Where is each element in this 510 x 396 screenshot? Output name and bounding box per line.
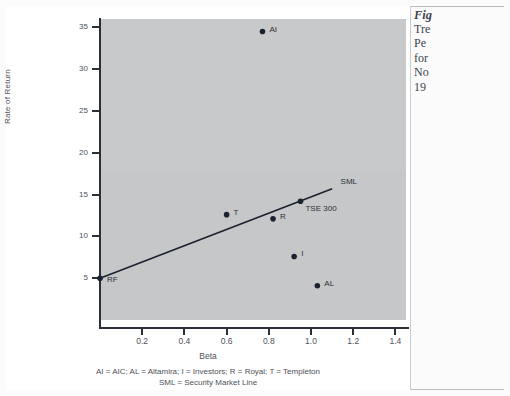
margin-note-line: Tre	[414, 22, 510, 36]
caption-line-2: SML = Security Market Line	[6, 377, 410, 388]
data-points-group	[97, 29, 320, 289]
margin-note-line: 19	[414, 80, 510, 94]
data-point-label: I	[301, 249, 303, 258]
chart-overlay	[6, 6, 410, 390]
figure-caption: AI = AIC; AL = Altamira; I = Investors; …	[6, 366, 410, 388]
margin-note-line: for	[414, 51, 510, 65]
margin-note-heading: Fig	[414, 8, 510, 22]
data-point	[291, 254, 297, 260]
data-point-label: T	[234, 208, 239, 217]
data-point-label: AL	[324, 279, 334, 288]
data-point-label: RF	[107, 275, 118, 284]
margin-note: Fig TrePeforNo19	[414, 8, 510, 94]
data-point	[260, 29, 266, 35]
data-point	[97, 275, 103, 281]
data-point-label: AI	[269, 25, 277, 34]
figure-page: 5101520253035 0.20.40.60.81.01.21.4 Rate…	[0, 0, 510, 396]
data-point	[315, 283, 321, 289]
margin-note-line: No	[414, 65, 510, 79]
data-point	[224, 212, 230, 218]
data-point	[270, 216, 276, 222]
margin-note-line: Pe	[414, 36, 510, 50]
caption-line-1: AI = AIC; AL = Altamira; I = Investors; …	[6, 366, 410, 377]
data-point-label: R	[280, 212, 286, 221]
security-market-line	[100, 189, 332, 278]
chart-figure: 5101520253035 0.20.40.60.81.01.21.4 Rate…	[6, 6, 411, 390]
sml-line-label: SML	[341, 177, 357, 186]
data-point-label: TSE 300	[305, 204, 336, 213]
data-point	[298, 198, 304, 204]
margin-note-lines: TrePeforNo19	[414, 22, 510, 94]
